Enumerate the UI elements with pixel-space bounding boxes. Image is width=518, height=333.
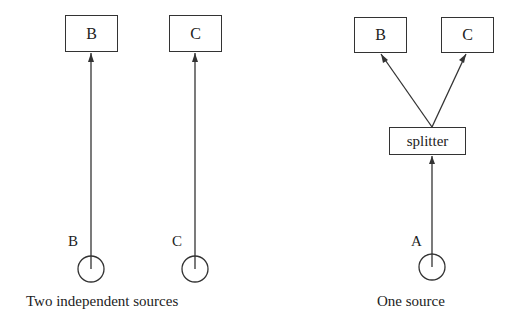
right-box-c: C: [441, 17, 494, 53]
left-box-b: B: [65, 15, 118, 52]
box-label: C: [462, 26, 473, 44]
source-b-label: B: [68, 233, 78, 250]
box-label: B: [86, 25, 97, 43]
box-label: B: [375, 26, 386, 44]
arrow-splitter-c: [432, 54, 466, 127]
right-caption: One source: [377, 293, 445, 310]
source-c-label: C: [172, 233, 182, 250]
source-a-label: A: [411, 233, 422, 250]
arrow-splitter-b: [381, 54, 432, 127]
splitter-label: splitter: [407, 133, 449, 150]
left-caption: Two independent sources: [26, 293, 178, 310]
box-label: C: [190, 25, 201, 43]
left-box-c: C: [169, 15, 222, 52]
right-box-b: B: [354, 17, 407, 53]
splitter-box: splitter: [389, 127, 466, 155]
